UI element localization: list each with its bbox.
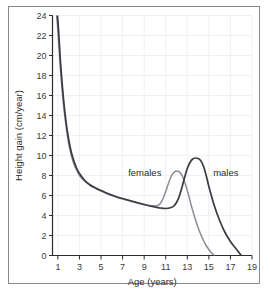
y-axis-title: Height gain (cm/year) (13, 90, 24, 181)
chart-canvas: 024681012141618202224135791113151719 Age… (0, 0, 270, 297)
x-tick-label: 9 (142, 262, 147, 272)
x-tick-label: 11 (161, 262, 170, 272)
y-tick-label: 2 (41, 231, 46, 241)
x-tick-label: 17 (225, 262, 235, 272)
y-tick-label: 4 (41, 211, 46, 221)
x-tick-label: 13 (182, 262, 192, 272)
x-axis-title: Age (years) (128, 276, 177, 287)
gridlines (53, 16, 253, 256)
curve-males (55, 0, 241, 256)
y-tick-label: 8 (41, 171, 46, 181)
x-tick-label: 7 (120, 262, 125, 272)
y-tick-label: 10 (36, 151, 46, 161)
series-label-females: females (128, 167, 162, 178)
series-label-males: males (213, 167, 239, 178)
data-curves (55, 0, 241, 256)
y-tick-label: 14 (36, 111, 46, 121)
y-tick-label: 12 (36, 131, 46, 141)
y-tick-label: 0 (41, 251, 46, 261)
y-tick-label: 6 (41, 191, 46, 201)
curve-females (55, 1, 214, 256)
x-tick-label: 15 (204, 262, 214, 272)
growth-velocity-figure: 024681012141618202224135791113151719 Age… (0, 0, 270, 297)
y-tick-label: 24 (36, 11, 46, 21)
y-tick-label: 22 (36, 31, 46, 41)
y-tick-label: 16 (36, 91, 46, 101)
x-tick-label: 1 (55, 262, 60, 272)
x-tick-label: 3 (77, 262, 82, 272)
x-tick-label: 5 (99, 262, 104, 272)
y-tick-label: 20 (36, 51, 46, 61)
y-tick-label: 18 (36, 71, 46, 81)
x-tick-label: 19 (247, 262, 257, 272)
